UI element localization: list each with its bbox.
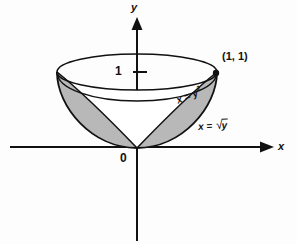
y-axis-label: y [131, 2, 137, 13]
figure-canvas: y x 1 0 (1, 1) x = y2 x = √y [0, 0, 297, 244]
point-1-1-marker [213, 70, 219, 76]
y-tick-label-1: 1 [115, 65, 122, 77]
radical-symbol-icon: √y [215, 118, 229, 131]
point-1-1-label: (1, 1) [222, 51, 248, 62]
y-axis-arrowhead [132, 17, 143, 30]
x-axis-label: x [278, 141, 284, 152]
x-axis-arrowhead [260, 142, 274, 153]
curve-label-outer-radicand: y [221, 118, 228, 130]
curve-label-outer-lhs: x = [198, 120, 216, 132]
solid-of-revolution-figure [0, 0, 297, 244]
curve-label-outer: x = √y [198, 118, 229, 132]
origin-label: 0 [120, 152, 127, 164]
